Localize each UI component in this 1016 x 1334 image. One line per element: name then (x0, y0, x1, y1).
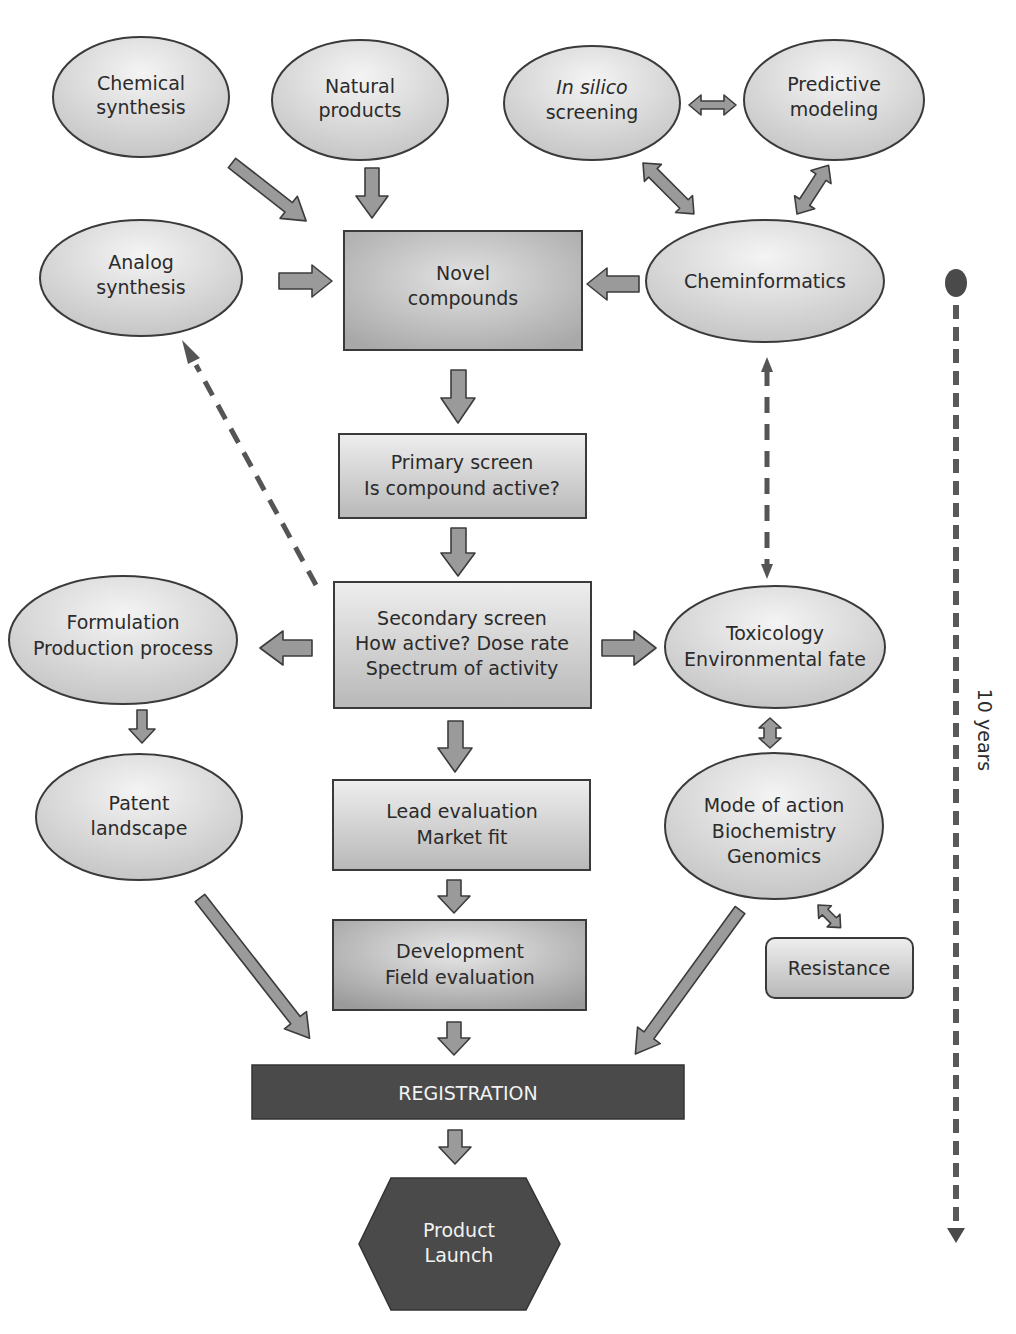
node-lead-evaluation: Lead evaluation Market fit (333, 780, 590, 870)
node-label: Analog (108, 251, 174, 273)
node-label: Chemical (97, 72, 185, 94)
node-label: Cheminformatics (684, 270, 846, 292)
node-development: Development Field evaluation (333, 920, 586, 1010)
arrow-novel-to-primary (441, 370, 475, 423)
node-label: Launch (425, 1244, 494, 1266)
dashed-arrow-toxicology-cheminformatics (761, 357, 773, 579)
node-primary-screen: Primary screen Is compound active? (339, 434, 586, 518)
node-formulation: Formulation Production process (9, 576, 237, 704)
node-label: Predictive (787, 73, 881, 95)
timeline-start-dot (945, 269, 967, 297)
node-label: Secondary screen (377, 607, 547, 629)
node-predictive-modeling: Predictive modeling (744, 40, 924, 160)
node-natural-products: Natural products (272, 40, 448, 160)
node-cheminformatics: Cheminformatics (646, 220, 884, 342)
node-label: synthesis (96, 96, 185, 118)
arrow-formulation-to-patent (129, 710, 155, 743)
node-registration: REGISTRATION (252, 1065, 684, 1119)
node-label: Biochemistry (712, 820, 836, 842)
node-label: Genomics (727, 845, 821, 867)
arrow-natural-to-novel (356, 168, 388, 218)
drug-discovery-flowchart: Chemical synthesis Natural products In s… (0, 0, 1016, 1334)
node-label: Production process (33, 637, 213, 659)
node-label: Patent (109, 792, 170, 814)
node-label: Primary screen (391, 451, 534, 473)
node-label: compounds (408, 287, 518, 309)
node-label: screening (546, 101, 639, 123)
arrow-patent-to-registration (189, 889, 321, 1047)
node-label: Field evaluation (385, 966, 535, 988)
arrow-primary-to-secondary (441, 528, 475, 576)
node-label: In silico (556, 76, 628, 98)
arrow-secondary-to-toxicology (602, 631, 656, 665)
node-label: Market fit (417, 826, 508, 848)
arrow-secondary-to-lead (438, 721, 472, 772)
arrow-chemical-to-novel (223, 152, 314, 232)
timeline-end-arrow (947, 1228, 965, 1243)
node-label: Mode of action (704, 794, 845, 816)
node-label: landscape (91, 817, 188, 839)
node-label: Spectrum of activity (366, 657, 559, 679)
arrow-predictive-cheminformatics (787, 159, 839, 221)
node-label: Environmental fate (684, 648, 866, 670)
node-label: Is compound active? (364, 477, 560, 499)
node-label: Toxicology (725, 622, 824, 644)
arrow-lead-to-development (438, 880, 470, 913)
timeline: 10 years (945, 269, 996, 1243)
arrow-insilico-cheminformatics (635, 155, 703, 223)
node-product-launch: Product Launch (359, 1178, 560, 1310)
node-resistance: Resistance (766, 938, 913, 998)
node-label: Resistance (788, 957, 890, 979)
node-label: Development (396, 940, 524, 962)
node-label: Natural (325, 75, 395, 97)
arrow-secondary-to-formulation (260, 631, 312, 665)
node-mode-of-action: Mode of action Biochemistry Genomics (665, 753, 883, 899)
arrow-registration-to-launch (439, 1130, 471, 1164)
arrow-modeofaction-resistance (812, 899, 847, 934)
node-patent-landscape: Patent landscape (36, 754, 242, 880)
timeline-label: 10 years (974, 689, 996, 772)
node-label: Product (423, 1219, 495, 1241)
node-secondary-screen: Secondary screen How active? Dose rate S… (334, 582, 591, 708)
node-novel-compounds: Novel compounds (344, 231, 582, 350)
node-label: Lead evaluation (386, 800, 538, 822)
node-label: REGISTRATION (398, 1082, 538, 1104)
dashed-arrow-secondary-to-analog (182, 340, 316, 585)
node-chemical-synthesis: Chemical synthesis (53, 37, 229, 157)
arrow-development-to-registration (438, 1022, 470, 1055)
node-label: How active? Dose rate (355, 632, 569, 654)
node-in-silico-screening: In silico screening (504, 46, 680, 160)
arrow-insilico-predictive (689, 95, 736, 115)
node-label: synthesis (96, 276, 185, 298)
node-label: Formulation (66, 611, 179, 633)
arrow-cheminformatics-to-novel (587, 268, 639, 300)
arrow-modeofaction-to-registration (624, 902, 751, 1062)
node-toxicology: Toxicology Environmental fate (665, 586, 885, 708)
node-label: products (319, 99, 402, 121)
node-analog-synthesis: Analog synthesis (40, 220, 242, 336)
arrow-analog-to-novel (279, 265, 332, 297)
node-label: modeling (790, 98, 879, 120)
arrow-toxicology-modeofaction (759, 718, 781, 748)
node-label: Novel (436, 262, 490, 284)
